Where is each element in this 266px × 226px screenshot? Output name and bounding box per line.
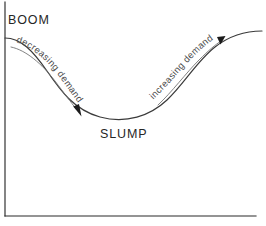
business-cycle-diagram: decreasing demand increasing demand BOOM… xyxy=(0,0,266,226)
decreasing-demand-label-text: decreasing demand xyxy=(15,34,85,105)
increasing-demand-label: increasing demand xyxy=(147,32,215,101)
slump-label: SLUMP xyxy=(100,128,148,141)
increasing-demand-label-text: increasing demand xyxy=(147,32,215,101)
decreasing-demand-label: decreasing demand xyxy=(15,34,85,105)
boom-label: BOOM xyxy=(8,14,50,27)
business-cycle-curve xyxy=(5,31,262,120)
diagram-canvas: decreasing demand increasing demand xyxy=(0,0,266,226)
decreasing-demand-arrowhead xyxy=(73,104,81,117)
